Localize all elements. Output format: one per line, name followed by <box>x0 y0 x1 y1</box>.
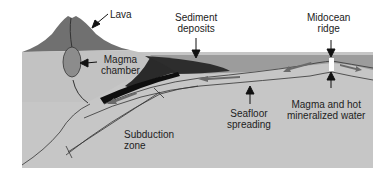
label-lava-text: Lava <box>110 9 132 20</box>
label-midocean-ridge: Midocean ridge <box>307 12 350 34</box>
label-magma-line2: chamber <box>101 65 140 76</box>
label-magma-hot-water: Magma and hot mineralized water <box>287 99 365 121</box>
label-seafloor-spreading: Seafloor spreading <box>227 108 271 130</box>
label-magma-water-line2: mineralized water <box>287 110 365 121</box>
label-magma-water-line1: Magma and hot <box>287 99 365 110</box>
label-subduction-line1: Subduction <box>124 129 174 140</box>
volcano-cone <box>22 16 130 52</box>
label-subduction-line2: zone <box>124 140 174 151</box>
label-ridge-line2: ridge <box>307 23 350 34</box>
label-ridge-line1: Midocean <box>307 12 350 23</box>
label-magma-line1: Magma <box>101 54 140 65</box>
label-sediment-line2: deposits <box>175 23 217 34</box>
label-seafloor-line2: spreading <box>227 119 271 130</box>
label-sediment-line1: Sediment <box>175 12 217 23</box>
label-subduction-zone: Subduction zone <box>124 129 174 151</box>
midocean-ridge-vent <box>329 58 334 71</box>
magma-chamber <box>63 47 81 77</box>
label-lava: Lava <box>110 9 132 20</box>
label-sediment-deposits: Sediment deposits <box>175 12 217 34</box>
label-seafloor-line1: Seafloor <box>227 108 271 119</box>
label-magma-chamber: Magma chamber <box>101 54 140 76</box>
